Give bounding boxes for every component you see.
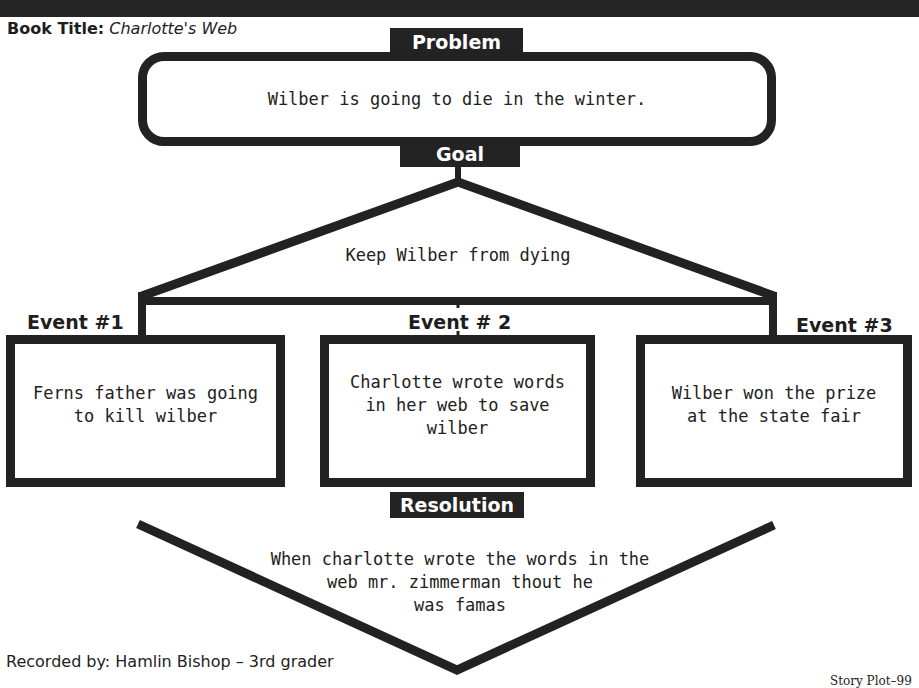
goal-triangle <box>142 182 774 296</box>
resolution-line: web mr. zimmerman thout he <box>200 571 720 594</box>
event-1-text: Ferns father was going to kill wilber <box>33 382 258 428</box>
event-2-line: in her web to save <box>350 394 565 417</box>
event-2-line: wilber <box>350 417 565 440</box>
problem-box: Wilber is going to die in the winter. <box>138 52 776 146</box>
resolution-text: When charlotte wrote the words in the we… <box>200 548 720 617</box>
problem-text: Wilber is going to die in the winter. <box>268 88 647 111</box>
event-1-line: Ferns father was going <box>33 382 258 405</box>
resolution-label: Resolution <box>390 492 524 518</box>
goal-text: Keep Wilber from dying <box>280 244 636 267</box>
event-3-box: Wilber won the prize at the state fair <box>636 335 912 487</box>
recorded-by: Recorded by: Hamlin Bishop – 3rd grader <box>6 652 334 671</box>
event-3-line: at the state fair <box>672 405 877 428</box>
event-1-box: Ferns father was going to kill wilber <box>6 335 285 487</box>
page-footer-label: Story Plot–99 <box>830 674 912 688</box>
event-2-line: Charlotte wrote words <box>350 371 565 394</box>
event-3-text: Wilber won the prize at the state fair <box>672 382 877 428</box>
event-2-title: Event # 2 <box>408 311 511 333</box>
resolution-line: was famas <box>200 594 720 617</box>
resolution-line: When charlotte wrote the words in the <box>200 548 720 571</box>
event-1-line: to kill wilber <box>33 405 258 428</box>
event-2-box: Charlotte wrote words in her web to save… <box>320 335 595 487</box>
goal-label: Goal <box>400 140 520 167</box>
event-3-title: Event #3 <box>796 314 893 336</box>
event-2-text: Charlotte wrote words in her web to save… <box>350 371 565 440</box>
event-1-title: Event #1 <box>27 311 124 333</box>
event-3-line: Wilber won the prize <box>672 382 877 405</box>
